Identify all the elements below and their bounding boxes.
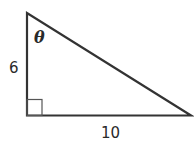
right-triangle [27,13,191,116]
vertical-side-label: 6 [9,59,19,77]
triangle-diagram: θ 6 10 [0,0,194,142]
right-angle-marker [27,100,42,116]
horizontal-side-label: 10 [101,124,120,142]
angle-theta-label: θ [34,28,45,47]
